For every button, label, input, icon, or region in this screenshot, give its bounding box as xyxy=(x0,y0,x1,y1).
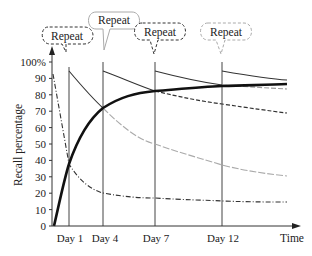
y-tick-20: 20 xyxy=(35,187,47,199)
y-tick-labels: 0 10 20 30 40 50 60 70 80 90 100% xyxy=(20,56,46,232)
y-tick-70: 70 xyxy=(35,105,47,117)
bubble-day7-text: Repeat xyxy=(144,26,177,39)
x-axis-title: Time xyxy=(280,232,304,244)
bubble-day7: Repeat xyxy=(135,23,186,54)
bubble-day4: Repeat xyxy=(89,12,140,50)
decay-after-day1-continued xyxy=(103,108,287,176)
decay-after-day7 xyxy=(155,71,222,85)
y-axis xyxy=(49,46,55,226)
y-tick-10: 10 xyxy=(35,204,47,216)
y-axis-title: Recall percentage xyxy=(12,104,25,186)
x-tick-day1: Day 1 xyxy=(57,232,84,244)
y-tick-30: 30 xyxy=(35,171,47,183)
bubble-day12: Repeat xyxy=(201,23,252,54)
decay-after-day12 xyxy=(222,71,287,80)
bubble-day12-text: Repeat xyxy=(210,26,243,39)
bubble-day4-text: Repeat xyxy=(98,14,131,27)
y-tick-90: 90 xyxy=(35,72,47,84)
x-tick-day12: Day 12 xyxy=(207,232,239,244)
y-tick-60: 60 xyxy=(35,122,47,134)
x-tick-labels: Day 1 Day 4 Day 7 Day 12 xyxy=(57,232,239,244)
y-tick-40: 40 xyxy=(35,154,47,166)
x-tick-day4: Day 4 xyxy=(92,232,119,244)
y-tick-50: 50 xyxy=(35,138,47,150)
y-tick-100: 100% xyxy=(20,56,46,68)
recall-chart: 0 10 20 30 40 50 60 70 80 90 100% Day 1 … xyxy=(0,0,312,256)
x-tick-day7: Day 7 xyxy=(143,232,170,244)
retention-curve xyxy=(54,84,287,226)
decay-after-day1 xyxy=(69,71,103,108)
x-axis xyxy=(52,223,301,229)
decay-after-day4-continued xyxy=(155,91,287,113)
x-axis-arrow-icon xyxy=(292,223,301,229)
bubble-day1: Repeat xyxy=(42,27,93,52)
y-tick-0: 0 xyxy=(41,220,47,232)
y-axis-arrow-icon xyxy=(49,46,55,55)
y-tick-80: 80 xyxy=(35,89,47,101)
bubble-day1-text: Repeat xyxy=(51,30,84,43)
decay-after-day4 xyxy=(103,71,155,91)
